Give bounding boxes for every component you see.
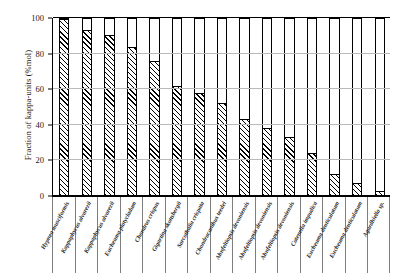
y-tick-label-100: 100 xyxy=(31,13,44,23)
bar-group xyxy=(194,18,204,196)
bar-fill xyxy=(240,119,248,195)
bar-group xyxy=(262,18,272,196)
bar-outline xyxy=(149,18,159,196)
x-axis-line xyxy=(52,196,390,197)
bar-fill xyxy=(173,86,181,195)
bar-fill xyxy=(285,137,293,195)
bar-group xyxy=(59,18,69,196)
bar-outline xyxy=(352,18,362,196)
bar-outline xyxy=(194,18,204,196)
x-axis-categories: Hypnea musciformisKappaphycus alvareziiK… xyxy=(52,196,390,273)
bar-group xyxy=(104,18,114,196)
bar-group xyxy=(329,18,339,196)
bar-group xyxy=(375,18,385,196)
bar-outline xyxy=(329,18,339,196)
bar-fill xyxy=(330,174,338,195)
x-category-cell: Agardhiella sp. xyxy=(367,196,390,273)
bar-group xyxy=(82,18,92,196)
bar-group xyxy=(149,18,159,196)
bar-fill xyxy=(218,103,226,195)
chart-figure: Fraction of kappa-units (%mol) 020406080… xyxy=(0,0,396,273)
bar-outline xyxy=(82,18,92,196)
y-axis-ticks: 020406080100 xyxy=(0,18,52,196)
bar-group xyxy=(284,18,294,196)
bar-group xyxy=(307,18,317,196)
bar-outline xyxy=(172,18,182,196)
gridline-80 xyxy=(53,53,390,54)
bar-fill xyxy=(195,93,203,195)
bar-group xyxy=(239,18,249,196)
gridline-100 xyxy=(53,17,390,18)
y-tick-label-40: 40 xyxy=(36,120,45,130)
bar-outline xyxy=(284,18,294,196)
bar-outline xyxy=(104,18,114,196)
bar-outline xyxy=(127,18,137,196)
bars-container xyxy=(53,18,390,196)
y-tick-label-60: 60 xyxy=(36,84,45,94)
y-tick-label-20: 20 xyxy=(36,155,45,165)
bar-fill xyxy=(263,128,271,195)
bar-group xyxy=(172,18,182,196)
bar-outline xyxy=(375,18,385,196)
bar-outline xyxy=(59,18,69,196)
x-category-label: Hypnea musciformis xyxy=(30,200,70,267)
bar-fill xyxy=(353,183,361,195)
gridline-20 xyxy=(53,159,390,160)
bar-outline xyxy=(262,18,272,196)
bar-fill xyxy=(150,61,158,195)
bar-outline xyxy=(307,18,317,196)
y-tick-label-0: 0 xyxy=(40,191,44,201)
bar-group xyxy=(352,18,362,196)
bar-fill xyxy=(105,35,113,195)
bar-group xyxy=(217,18,227,196)
bar-outline xyxy=(239,18,249,196)
gridline-40 xyxy=(53,124,390,125)
bar-fill xyxy=(128,47,136,195)
bar-fill xyxy=(83,30,91,195)
y-tick-label-80: 80 xyxy=(36,49,45,59)
bar-fill xyxy=(60,19,68,195)
gridline-60 xyxy=(53,88,390,89)
bar-outline xyxy=(217,18,227,196)
bar-group xyxy=(127,18,137,196)
plot-area xyxy=(52,18,390,196)
